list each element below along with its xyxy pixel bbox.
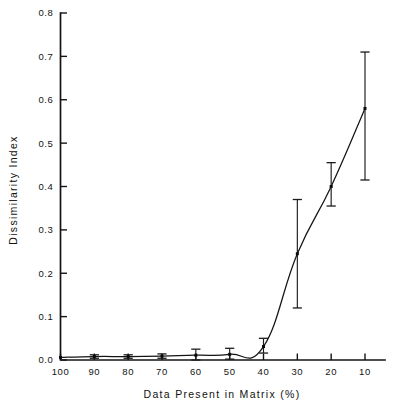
x-axis-tick-labels: 100908070605040302010 [52,366,371,377]
y-tick-label: 0.6 [38,94,53,105]
y-tick-label: 0.1 [38,311,53,322]
y-axis-ticks [61,13,68,360]
axis-lines [61,13,386,360]
error-bar [327,163,336,206]
figure-container: 0.00.10.20.30.40.50.60.70.8 100908070605… [0,0,393,409]
data-series-line [61,108,366,358]
x-tick-label: 40 [258,366,270,377]
y-axis-tick-labels: 0.00.10.20.30.40.50.60.70.8 [38,7,53,365]
data-point-marker [127,355,130,358]
data-point-marker [364,107,367,110]
y-tick-label: 0.0 [38,354,53,365]
data-point-marker [93,355,96,358]
data-point-marker [59,356,62,359]
x-tick-label: 20 [325,366,337,377]
x-axis-title: Data Present in Matrix (%) [144,388,301,400]
data-point-marker [161,355,164,358]
x-tick-label: 60 [190,366,202,377]
data-point-marker [228,353,231,356]
dissimilarity-index-chart: 0.00.10.20.30.40.50.60.70.8 100908070605… [0,0,393,409]
axes [61,13,386,360]
data-point-marker [330,185,333,188]
x-tick-label: 100 [52,366,70,377]
y-tick-label: 0.2 [38,268,53,279]
y-tick-label: 0.7 [38,51,53,62]
x-tick-label: 90 [88,366,100,377]
y-axis-title: Dissimilarity Index [7,135,19,244]
y-tick-label: 0.4 [38,181,53,192]
data-point-marker [262,345,265,348]
x-tick-label: 10 [359,366,371,377]
x-tick-label: 80 [122,366,134,377]
x-tick-label: 50 [224,366,236,377]
error-bars [90,52,370,360]
data-point-marker [296,252,299,255]
x-tick-label: 70 [156,366,168,377]
x-tick-label: 30 [291,366,303,377]
y-tick-label: 0.8 [38,7,53,18]
data-point-marker [194,354,197,357]
y-tick-label: 0.5 [38,138,53,149]
y-tick-label: 0.3 [38,224,53,235]
data-point-markers [59,107,367,359]
